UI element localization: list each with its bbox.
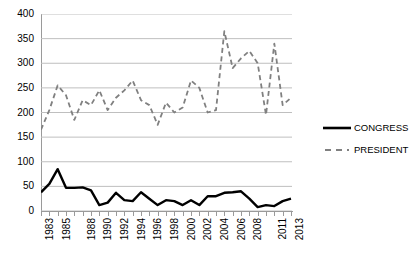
y-tick-label: 150: [17, 132, 34, 142]
x-tick-label: 2002: [203, 218, 213, 240]
x-tick-label: 1988: [87, 218, 97, 240]
x-tick-label: 2004: [220, 218, 230, 240]
x-tick-label: 2011: [278, 218, 288, 240]
line-chart: 050100150200250300350400 198319851988199…: [0, 0, 415, 260]
y-tick-label: 300: [17, 58, 34, 68]
y-tick-label: 400: [17, 9, 34, 19]
gridlines: [41, 14, 292, 211]
plot-svg: [41, 14, 292, 211]
x-tick-label: 1990: [103, 218, 113, 240]
x-tick-label: 2006: [237, 218, 247, 240]
x-tick-label: 1994: [137, 218, 147, 240]
x-tick-label: 1992: [120, 218, 130, 240]
x-tick-label: 1998: [170, 218, 180, 240]
series-line-president: [41, 31, 291, 129]
dashed-line-swatch-icon: [323, 144, 351, 156]
y-tick-label: 200: [17, 108, 34, 118]
y-tick-label: 250: [17, 83, 34, 93]
x-tick-label: 1983: [45, 218, 55, 240]
x-axis: 1983198519881990199219941996199820002002…: [41, 216, 293, 260]
y-tick-label: 350: [17, 34, 34, 44]
y-tick-label: 100: [17, 157, 34, 167]
legend-item-president[interactable]: PRESIDENT: [323, 139, 415, 161]
chart-legend: CONGRESS PRESIDENT: [323, 117, 415, 161]
plot-area: [41, 14, 292, 211]
y-tick-label: 50: [23, 181, 34, 191]
x-tick-label: 2013: [295, 218, 305, 240]
x-tick-label: 1985: [62, 218, 72, 240]
legend-item-congress[interactable]: CONGRESS: [323, 117, 415, 139]
series-layer: [41, 31, 291, 207]
series-line-congress: [41, 169, 291, 207]
legend-label-president: PRESIDENT: [354, 145, 408, 155]
x-tick-label: 2008: [253, 218, 263, 240]
y-axis: 050100150200250300350400: [0, 0, 39, 225]
y-tick-label: 0: [28, 206, 34, 216]
x-tick-label: 1996: [153, 218, 163, 240]
solid-line-swatch-icon: [323, 122, 351, 134]
legend-label-congress: CONGRESS: [354, 123, 408, 133]
x-tick-label: 2000: [187, 218, 197, 240]
